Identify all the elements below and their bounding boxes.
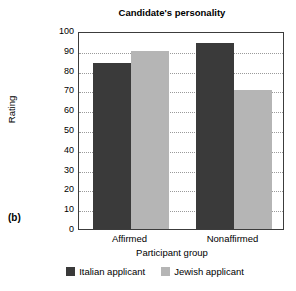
bar (131, 51, 169, 229)
legend-item[interactable]: Italian applicant (66, 266, 145, 277)
gridline (79, 53, 283, 54)
y-tick-label: 70 (52, 86, 74, 95)
bar (234, 90, 272, 229)
y-tick-label: 20 (52, 185, 74, 194)
y-tick-label: 100 (52, 27, 74, 36)
plot-area (78, 32, 284, 230)
y-tick-label: 0 (52, 225, 74, 234)
figure-panel: (b) Candidate's personality 010203040506… (0, 0, 296, 291)
y-tick-label: 60 (52, 106, 74, 115)
legend-label: Italian applicant (79, 266, 145, 277)
y-tick-label: 50 (52, 126, 74, 135)
bar (196, 43, 234, 229)
legend-swatch-icon (66, 267, 75, 276)
y-tick-label: 30 (52, 166, 74, 175)
y-tick-label: 40 (52, 146, 74, 155)
y-axis-ticks: 0102030405060708090100 (50, 32, 74, 230)
bar (93, 63, 131, 229)
x-axis-title: Participant group (56, 247, 288, 258)
chart-title: Candidate's personality (56, 7, 288, 18)
y-tick-label: 80 (52, 67, 74, 76)
legend: Italian applicantJewish applicant (30, 266, 280, 277)
y-tick-label: 90 (52, 47, 74, 56)
y-axis-title: Rating (6, 75, 17, 145)
panel-label: (b) (8, 212, 21, 223)
legend-item[interactable]: Jewish applicant (161, 266, 244, 277)
x-axis-ticks: AffirmedNonaffirmed (78, 233, 284, 247)
legend-swatch-icon (161, 267, 170, 276)
x-tick-label: Affirmed (80, 233, 180, 244)
y-tick-label: 10 (52, 205, 74, 214)
legend-label: Jewish applicant (174, 266, 244, 277)
x-tick-label: Nonaffirmed (183, 233, 283, 244)
